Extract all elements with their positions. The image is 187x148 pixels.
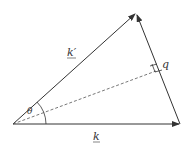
k-prime-label: k′ bbox=[67, 46, 77, 59]
k-label: k bbox=[93, 130, 100, 143]
bisector-dashed-line bbox=[13, 71, 156, 124]
theta-angle-arc bbox=[37, 102, 46, 124]
theta-label: θ bbox=[27, 106, 33, 116]
q-label: q bbox=[162, 58, 169, 71]
right-angle-marker bbox=[150, 64, 162, 72]
q-vector bbox=[137, 15, 180, 124]
scattering-vector-diagram: k′ k q θ bbox=[0, 0, 187, 148]
